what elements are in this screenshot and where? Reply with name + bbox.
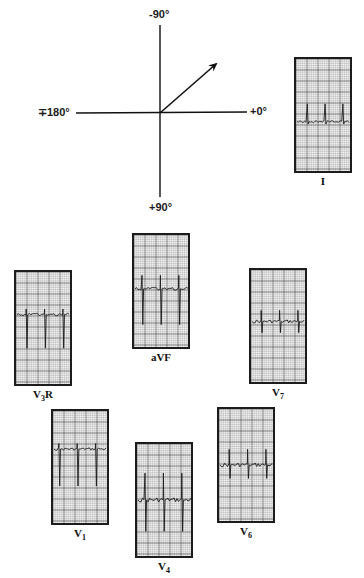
lead-name: V [33,388,41,400]
lead-label-v3r: V3R [14,388,72,403]
lead-name: V [74,527,82,539]
axis-label-top: -90° [149,8,169,20]
lead-name: aVF [151,351,171,363]
lead-label-v7: V7 [249,386,307,401]
ecg-strip-v6 [217,407,275,523]
ecg-waveform [296,59,350,171]
lead-label-v4: V4 [135,560,193,575]
lead-name: V [272,386,280,398]
ecg-strip-avf [132,233,190,349]
ecg-grid [16,272,70,384]
lead-subscript: 7 [280,392,284,401]
ecg-grid [53,411,107,523]
ecg-strip-v1 [51,409,109,525]
ecg-waveform [16,272,70,384]
lead-name: I [321,175,325,187]
axis-label-left: ∓180° [38,106,70,119]
ecg-waveform [219,409,273,521]
ecg-strip-v7 [249,268,307,384]
ecg-waveform [137,444,191,556]
lead-label-avf: aVF [132,351,190,363]
lead-subscript: 6 [248,531,252,540]
lead-suffix: R [45,388,53,400]
ecg-waveform [53,411,107,523]
ecg-strip-v4 [135,442,193,558]
ecg-strip-i [294,57,352,173]
ecg-grid [251,270,305,382]
lead-subscript: 4 [166,566,170,575]
axis-vector-arrow [160,64,216,113]
lead-label-v1: V1 [51,527,109,542]
axis-label-right: +0° [250,105,267,117]
axis-label-bottom: +90° [149,201,172,213]
lead-name: V [240,525,248,537]
lead-label-i: I [294,175,352,187]
lead-subscript: 1 [82,533,86,542]
ecg-waveform [251,270,305,382]
lead-name: V [158,560,166,572]
ecg-waveform [134,235,188,347]
lead-label-v6: V6 [217,525,275,540]
ecg-strip-v3r [14,270,72,386]
